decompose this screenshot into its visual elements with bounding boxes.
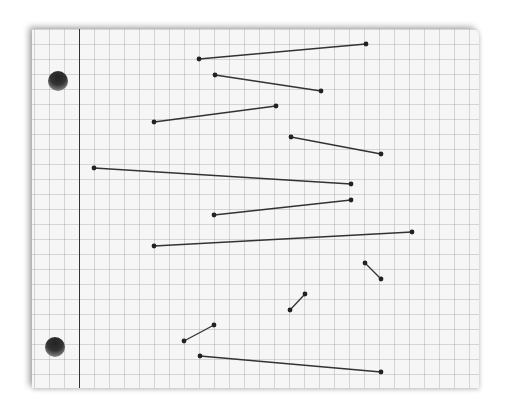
line-segments — [0, 0, 505, 408]
endpoint-dot — [289, 135, 294, 140]
endpoint-dot — [212, 323, 217, 328]
endpoint-dot — [182, 339, 187, 344]
line-segment — [212, 198, 354, 218]
line-segment — [213, 73, 324, 94]
endpoint-dot — [410, 230, 415, 235]
line-segment — [197, 42, 369, 62]
line-segment — [289, 135, 384, 157]
endpoint-dot — [349, 198, 354, 203]
endpoint-dot — [212, 213, 217, 218]
line-segment — [152, 230, 415, 249]
line-segment — [288, 292, 308, 313]
endpoint-dot — [213, 73, 218, 78]
line-segment — [152, 104, 279, 125]
endpoint-dot — [379, 370, 384, 375]
endpoint-dot — [198, 354, 203, 359]
endpoint-dot — [364, 42, 369, 47]
endpoint-dot — [379, 152, 384, 157]
line-segment — [363, 261, 384, 282]
endpoint-dot — [363, 261, 368, 266]
line-segment — [198, 354, 384, 375]
endpoint-dot — [379, 277, 384, 282]
endpoint-dot — [197, 57, 202, 62]
endpoint-dot — [152, 120, 157, 125]
line-segment — [182, 323, 217, 344]
endpoint-dot — [303, 292, 308, 297]
endpoint-dot — [92, 166, 97, 171]
endpoint-dot — [349, 182, 354, 187]
endpoint-dot — [274, 104, 279, 109]
line-segment — [92, 166, 354, 187]
endpoint-dot — [288, 308, 293, 313]
endpoint-dot — [152, 244, 157, 249]
endpoint-dot — [319, 89, 324, 94]
